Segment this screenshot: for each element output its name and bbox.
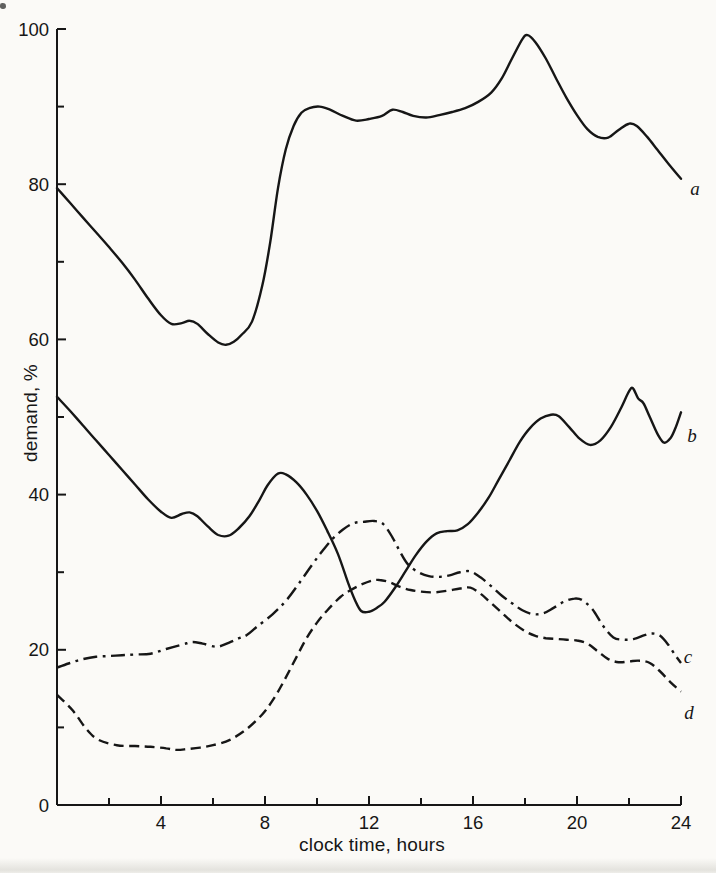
- curve-label-b: b: [687, 425, 697, 446]
- y-axis-title: demand, %: [20, 364, 42, 462]
- curve-a: [57, 35, 681, 345]
- scan-smudge: [0, 858, 716, 873]
- curve-label-c: c: [684, 646, 693, 667]
- x-axis-title: clock time, hours: [299, 834, 445, 856]
- x-tick-label-24: 24: [671, 812, 692, 833]
- chart-canvas: 0204060801004812162024abcd: [0, 0, 716, 873]
- y-tick-label-80: 80: [28, 174, 49, 195]
- curve-c: [57, 521, 681, 668]
- y-tick-label-60: 60: [28, 329, 49, 350]
- x-tick-label-8: 8: [260, 812, 270, 833]
- demand-vs-clock-time-figure: 0204060801004812162024abcd demand, % clo…: [0, 0, 716, 873]
- x-tick-label-12: 12: [359, 812, 380, 833]
- x-tick-label-4: 4: [156, 812, 166, 833]
- x-tick-label-16: 16: [463, 812, 484, 833]
- y-tick-label-40: 40: [28, 484, 49, 505]
- y-tick-label-20: 20: [28, 639, 49, 660]
- curve-label-a: a: [690, 178, 700, 199]
- curve-label-d: d: [684, 702, 694, 723]
- scan-speck: [0, 3, 6, 9]
- y-tick-label-0: 0: [39, 795, 49, 816]
- y-tick-label-100: 100: [18, 19, 49, 40]
- x-tick-label-20: 20: [567, 812, 588, 833]
- curve-b: [57, 388, 681, 613]
